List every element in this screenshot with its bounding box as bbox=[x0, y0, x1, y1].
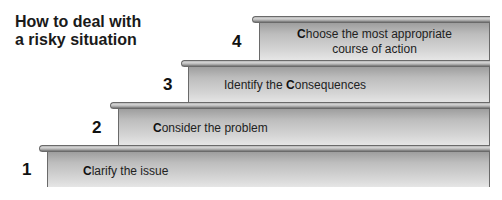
step-1-number: 1 bbox=[22, 160, 31, 180]
step-4-label: Choose the most appropriate course of ac… bbox=[259, 27, 490, 57]
step-3-ledge bbox=[181, 60, 490, 67]
step-2-number: 2 bbox=[92, 118, 101, 138]
step-1-initial: C bbox=[83, 164, 92, 178]
step-1-label: Clarify the issue bbox=[83, 164, 168, 179]
step-4-number: 4 bbox=[232, 32, 241, 52]
diagram-title: How to deal with a risky situation bbox=[15, 13, 141, 49]
step-4-initial: C bbox=[297, 27, 306, 41]
step-1-text: larify the issue bbox=[92, 164, 169, 178]
step-4-ledge bbox=[252, 16, 490, 23]
title-line-2: a risky situation bbox=[15, 31, 141, 49]
step-2-text: onsider the problem bbox=[162, 121, 268, 135]
step-3-number: 3 bbox=[163, 75, 172, 95]
step-2-label: Consider the problem bbox=[153, 121, 268, 136]
step-3-text: onsequences bbox=[295, 78, 366, 92]
step-4-text-line2: course of action bbox=[259, 42, 490, 57]
step-2-ledge bbox=[110, 102, 490, 109]
step-3-initial: C bbox=[286, 78, 295, 92]
step-2-initial: C bbox=[153, 121, 162, 135]
title-line-1: How to deal with bbox=[15, 13, 141, 31]
step-4-text: hoose the most appropriate bbox=[306, 27, 452, 41]
step-1-ledge bbox=[39, 145, 490, 152]
step-3-prefix: Identify the bbox=[224, 78, 286, 92]
step-3-label: Identify the Consequences bbox=[224, 78, 366, 93]
